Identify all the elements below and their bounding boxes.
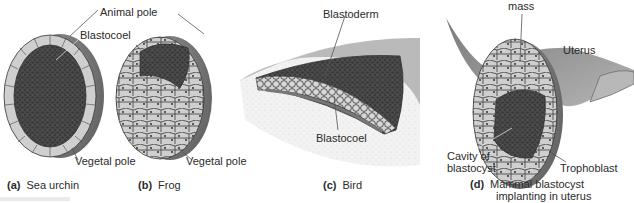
label-trophoblast: Trophoblast (560, 162, 618, 174)
caption-d: (d)Mammal blastocyst (470, 178, 584, 190)
caption-d-letter: (d) (470, 178, 484, 190)
caption-c-text: Bird (342, 179, 362, 191)
label-inner-cell-mass: mass (508, 0, 534, 12)
label-cavity-line1: Cavity of (447, 150, 490, 162)
caption-d-line2: implanting in uterus (496, 190, 591, 202)
label-cavity-line2: blastocyst (447, 162, 496, 174)
caption-c: (c)Bird (323, 179, 362, 191)
scan-artifact (0, 197, 70, 201)
label-blastocoel-a: Blastocoel (80, 29, 131, 41)
caption-a: (a)Sea urchin (7, 179, 79, 191)
caption-a-text: Sea urchin (26, 179, 79, 191)
label-uterus: Uterus (563, 44, 595, 56)
caption-c-letter: (c) (323, 179, 336, 191)
caption-a-letter: (a) (7, 179, 20, 191)
label-vegetal-pole-a: Vegetal pole (75, 155, 136, 167)
label-vegetal-pole-b: Vegetal pole (186, 155, 247, 167)
caption-d-text-line1: Mammal blastocyst (490, 178, 584, 190)
bird-blastoderm (240, 38, 420, 167)
label-animal-pole: Animal pole (100, 6, 157, 18)
label-blastoderm: Blastoderm (323, 8, 379, 20)
frog-blastula (116, 36, 212, 160)
caption-b-text: Frog (158, 179, 181, 191)
caption-b-letter: (b) (138, 179, 152, 191)
sea-urchin-blastula (4, 34, 104, 158)
caption-b: (b)Frog (138, 179, 181, 191)
label-blastocoel-c: Blastocoel (316, 132, 367, 144)
